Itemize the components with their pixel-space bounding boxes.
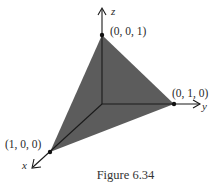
x-vertex-label: (1, 0, 0) [5,139,41,151]
x-vertex-dot [48,150,52,154]
z-vertex-label: (0, 0, 1) [110,26,146,38]
tetrahedron-figure: z y x (0, 0, 1) (0, 1, 0) (1, 0, 0) Figu… [0,0,221,185]
y-vertex-dot [172,102,176,106]
z-axis-label: z [111,6,115,17]
figure-caption: Figure 6.34 [0,168,221,183]
y-vertex-label: (0, 1, 0) [172,88,208,100]
y-axis-label: y [202,101,207,112]
z-vertex-dot [100,33,104,37]
